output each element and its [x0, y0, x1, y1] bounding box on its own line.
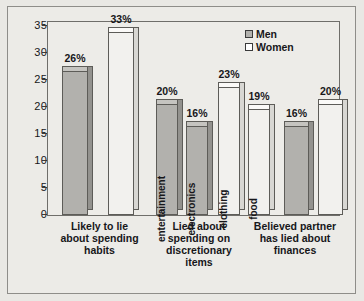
bar-g2-electronics: electronics 16%: [186, 126, 208, 215]
bar-side-3d: [134, 27, 139, 210]
bar-side-3d: [208, 121, 213, 210]
bar-inner-label-food: food: [248, 198, 259, 220]
category-line: habits: [47, 244, 152, 256]
bar-inner-label-clothing: clothing: [218, 190, 229, 229]
legend-swatch-men-icon: [245, 30, 253, 38]
bar-face: [62, 71, 88, 215]
chart-screenshot: 35 30 25 20 15 10 5 0 Men Women: [0, 0, 364, 301]
y-axis: 35 30 25 20 15 10 5 0: [0, 21, 47, 216]
bar-value-label: 19%: [248, 90, 269, 102]
bar-side-3d: [309, 121, 314, 210]
bar-g1-women: 33%: [108, 32, 134, 215]
category-line: Believed partner: [246, 220, 344, 232]
bar-g2-clothing: clothing 23%: [218, 87, 240, 215]
bar-g1-men: 26%: [62, 71, 88, 215]
legend-item-men: Men: [245, 27, 294, 40]
plot-area: Men Women 26% 33% entertainment: [47, 21, 340, 216]
legend-label-women: Women: [256, 41, 294, 53]
bar-g2-entertainment: entertainment 20%: [156, 104, 178, 215]
category-line: items: [153, 256, 245, 268]
category-line: about spending: [47, 232, 152, 244]
bar-g3-women: 20%: [318, 104, 343, 215]
legend-item-women: Women: [245, 40, 294, 53]
bar-face: [284, 126, 309, 215]
category-line: Likely to lie: [47, 220, 152, 232]
bar-side-3d: [178, 99, 183, 210]
bar-side-3d: [88, 66, 93, 210]
legend-swatch-women-icon: [245, 43, 253, 51]
bar-value-label: 33%: [110, 13, 131, 25]
bar-value-label: 23%: [218, 68, 239, 80]
category-line: finances: [246, 244, 344, 256]
bar-value-label: 20%: [320, 85, 341, 97]
bar-g2-food: food 19%: [248, 109, 270, 215]
bar-face: [318, 104, 343, 215]
bar-g3-men: 16%: [284, 126, 309, 215]
bar-value-label: 26%: [64, 52, 85, 64]
bar-value-label: 20%: [156, 85, 177, 97]
category-line: discretionary: [153, 244, 245, 256]
category-label-3: Believed partner has lied about finances: [246, 220, 344, 256]
bar-inner-label-electronics: electronics: [186, 183, 197, 236]
bar-face: [108, 32, 134, 215]
legend: Men Women: [245, 27, 294, 53]
bar-side-3d: [343, 99, 348, 210]
bar-inner-label-entertainment: entertainment: [156, 176, 167, 242]
bar-side-3d: [240, 82, 245, 210]
bar-side-3d: [270, 104, 275, 210]
bar-value-label: 16%: [286, 107, 307, 119]
bar-value-label: 16%: [186, 107, 207, 119]
category-label-1: Likely to lie about spending habits: [47, 220, 152, 256]
category-line: has lied about: [246, 232, 344, 244]
legend-label-men: Men: [256, 28, 277, 40]
